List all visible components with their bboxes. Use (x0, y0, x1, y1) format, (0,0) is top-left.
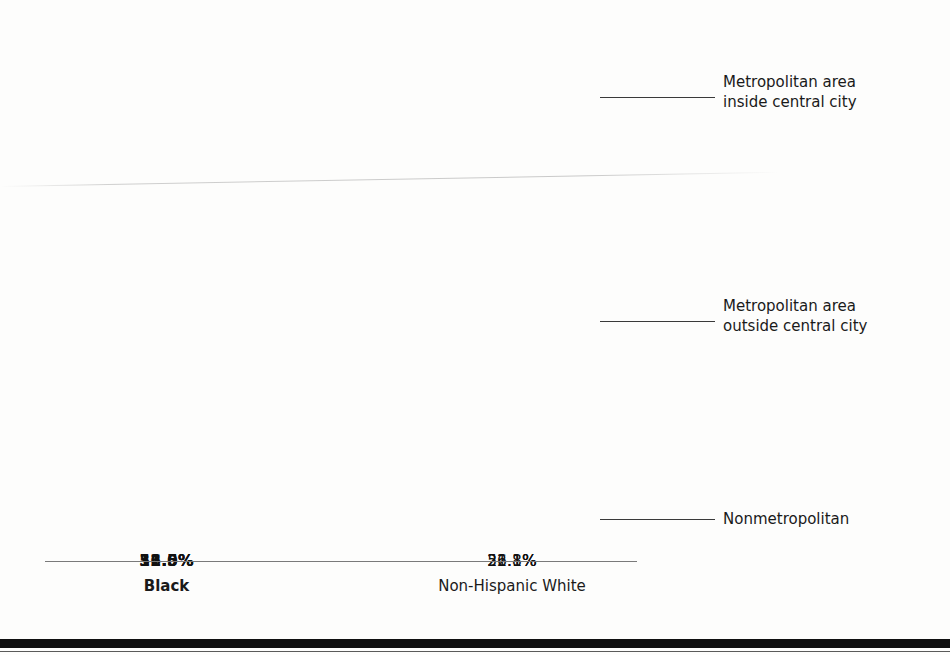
segment-value-label: 22.1% (421, 554, 603, 570)
callout-label: Nonmetropolitan (723, 510, 933, 530)
bar-non-hispanic-white[interactable]: 21.1% 56.8% 22.1% (421, 43, 603, 562)
x-axis-line (45, 561, 637, 562)
x-axis-label-non-hispanic-white: Non-Hispanic White (400, 578, 624, 595)
callout-label: Metropolitan area inside central city (723, 73, 933, 113)
x-axis-label-black: Black (75, 578, 258, 595)
callout-leader-line (600, 519, 715, 520)
bottom-rule-thin (0, 651, 950, 652)
segment-value-label: 12.5% (75, 554, 258, 570)
callout-leader-line (600, 321, 715, 322)
callout-label: Metropolitan area outside central city (723, 297, 933, 337)
bar-black[interactable]: 51.5% 36.0% 12.5% (75, 42, 258, 562)
callout-leader-line (600, 97, 715, 98)
stacked-bar-chart: 51.5% 36.0% 12.5% 21.1% 56.8% 22.1% Blac… (0, 0, 950, 655)
bottom-rule (0, 639, 950, 648)
